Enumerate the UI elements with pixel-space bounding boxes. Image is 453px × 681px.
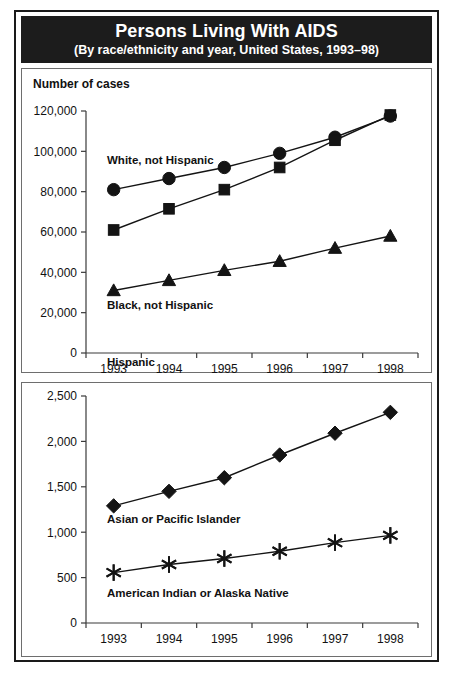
y-tick-label: 2,500: [47, 389, 77, 403]
data-point-square: [108, 225, 119, 236]
y-tick-label: 0: [70, 616, 77, 630]
y-tick-label: 2,000: [47, 435, 77, 449]
data-point-diamond: [328, 426, 342, 440]
bottom-chart-plot: 05001,0001,5002,0002,5001993199419951996…: [22, 383, 433, 658]
top-chart-plot: 020,00040,00060,00080,000100,000120,0001…: [22, 69, 433, 374]
series-line: [114, 412, 391, 506]
series-circle: [107, 110, 396, 196]
series-label-black: Black, not Hispanic: [107, 299, 214, 311]
series-square: [108, 110, 395, 236]
series-triangle: [107, 229, 397, 295]
y-tick-label: 100,000: [34, 145, 78, 159]
page-title: Persons Living With AIDS: [115, 21, 338, 41]
x-tick-label: 1996: [266, 632, 293, 646]
data-point-diamond: [106, 499, 120, 513]
y-tick-label: 60,000: [40, 225, 77, 239]
y-tick-label: 120,000: [34, 104, 78, 118]
x-tick-label: 1994: [156, 362, 183, 374]
series-diamond: [106, 405, 397, 513]
x-tick-label: 1994: [156, 632, 183, 646]
data-point-diamond: [383, 405, 397, 419]
data-point-square: [385, 110, 396, 121]
title-banner: Persons Living With AIDS (By race/ethnic…: [21, 16, 432, 63]
y-tick-label: 1,000: [47, 526, 77, 540]
series-label-american-indian: American Indian or Alaska Native: [107, 587, 289, 599]
page-subtitle: (By race/ethnicity and year, United Stat…: [74, 42, 379, 58]
data-point-square: [330, 135, 341, 146]
data-point-circle: [163, 172, 175, 184]
y-tick-label: 500: [57, 571, 77, 585]
data-point-diamond: [272, 448, 286, 462]
series-label-hispanic: Hispanic: [107, 356, 156, 368]
x-tick-label: 1995: [211, 362, 238, 374]
data-point-square: [164, 204, 175, 215]
data-point-triangle: [384, 229, 397, 241]
x-tick-label: 1995: [211, 632, 238, 646]
series-label-white: White, not Hispanic: [107, 154, 214, 166]
series-label-asian: Asian or Pacific Islander: [107, 513, 241, 525]
top-chart-panel: Number of cases 020,00040,00060,00080,00…: [21, 68, 432, 373]
series-line: [114, 236, 391, 290]
bottom-chart-panel: 05001,0001,5002,0002,5001993199419951996…: [21, 382, 432, 657]
series-line: [114, 535, 391, 572]
data-point-square: [219, 184, 230, 195]
data-point-square: [274, 162, 285, 173]
data-point-circle: [107, 183, 119, 195]
figure-root: Persons Living With AIDS (By race/ethnic…: [0, 0, 453, 681]
x-tick-label: 1993: [100, 632, 127, 646]
x-tick-label: 1998: [377, 632, 404, 646]
y-tick-label: 40,000: [40, 266, 77, 280]
data-point-circle: [218, 161, 230, 173]
series-star: [107, 527, 398, 581]
y-tick-label: 0: [70, 346, 77, 360]
y-tick-label: 80,000: [40, 185, 77, 199]
data-point-diamond: [162, 484, 176, 498]
y-tick-label: 1,500: [47, 480, 77, 494]
x-tick-label: 1996: [266, 362, 293, 374]
x-tick-label: 1997: [322, 632, 349, 646]
data-point-diamond: [217, 471, 231, 485]
data-point-circle: [273, 147, 285, 159]
y-tick-label: 20,000: [40, 306, 77, 320]
x-tick-label: 1997: [322, 362, 349, 374]
x-tick-label: 1998: [377, 362, 404, 374]
